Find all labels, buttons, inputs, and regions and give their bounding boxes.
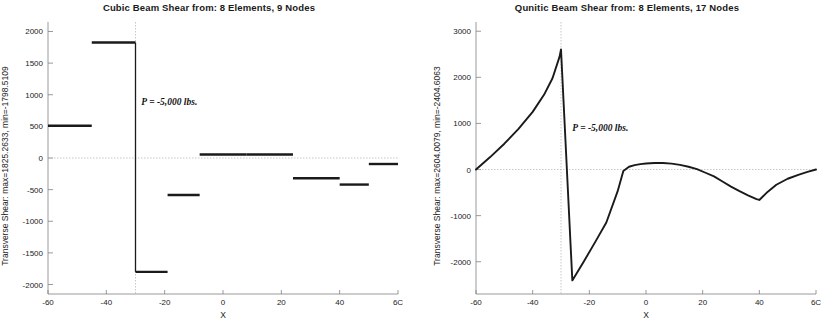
y-tick-label: 3000: [453, 27, 471, 36]
x-tick-label: 0: [644, 298, 648, 307]
y-tick-labels-cubic: 2000150010005000-500-1000-1500-2000: [4, 22, 48, 294]
x-tick-label: 0: [221, 298, 225, 307]
x-tick-label: -60: [42, 298, 54, 307]
figure-sheet: Cubic Beam Shear from: 8 Elements, 9 Nod…: [0, 0, 836, 331]
load-annotation-quintic: P = -5,000 lbs.: [572, 123, 628, 133]
chart-title-quintic: Qunitic Beam Shear from: 8 Elements, 17 …: [418, 2, 836, 13]
y-tick-label: 2000: [25, 27, 43, 36]
x-tick-label: -60: [470, 298, 482, 307]
x-tick-label: -20: [584, 298, 596, 307]
x-tick-label: 40: [755, 298, 764, 307]
y-tick-label: 0: [39, 154, 43, 163]
chart-panel-quintic: Qunitic Beam Shear from: 8 Elements, 17 …: [418, 0, 836, 331]
x-tick-labels-cubic: -60-40-20020406C: [48, 294, 398, 308]
x-tick-label: -40: [527, 298, 539, 307]
y-tick-label: -1000: [23, 217, 43, 226]
plot-svg-cubic: [48, 22, 398, 294]
plot-svg-quintic: [476, 22, 816, 294]
plot-area-cubic: 2000150010005000-500-1000-1500-2000 -60-…: [48, 22, 398, 294]
x-tick-label: 6C: [393, 298, 403, 307]
load-annotation-cubic: P = -5,000 lbs.: [141, 97, 197, 107]
y-tick-label: 500: [30, 122, 43, 131]
y-tick-label: 2000: [453, 73, 471, 82]
chart-panel-cubic: Cubic Beam Shear from: 8 Elements, 9 Nod…: [0, 0, 418, 331]
y-tick-label: -1000: [451, 211, 471, 220]
x-axis-label-quintic: X: [476, 310, 816, 320]
shear-curve: [476, 49, 816, 280]
x-tick-labels-quintic: -60-40-20020406C: [476, 294, 816, 308]
x-tick-label: -20: [159, 298, 171, 307]
x-tick-label: 20: [698, 298, 707, 307]
y-tick-labels-quintic: 3000200010000-1000-2000: [432, 22, 476, 294]
y-tick-label: 1000: [453, 119, 471, 128]
y-tick-label: -2000: [23, 280, 43, 289]
y-tick-label: 1500: [25, 59, 43, 68]
x-tick-label: 6C: [811, 298, 821, 307]
y-tick-label: -1500: [23, 248, 43, 257]
y-tick-label: -500: [27, 185, 43, 194]
x-tick-label: -40: [101, 298, 113, 307]
y-tick-label: 0: [467, 165, 471, 174]
chart-title-cubic: Cubic Beam Shear from: 8 Elements, 9 Nod…: [0, 2, 418, 13]
y-tick-label: -2000: [451, 257, 471, 266]
x-tick-label: 20: [277, 298, 286, 307]
x-tick-label: 40: [335, 298, 344, 307]
plot-area-quintic: 3000200010000-1000-2000 -60-40-20020406C…: [476, 22, 816, 294]
y-tick-label: 1000: [25, 90, 43, 99]
x-axis-label-cubic: X: [48, 310, 398, 320]
